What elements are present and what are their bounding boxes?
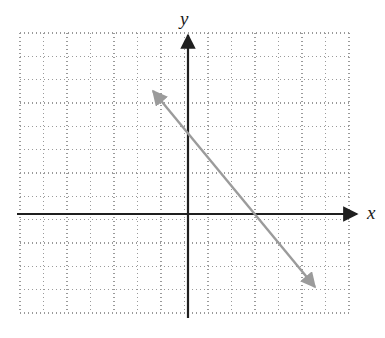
plotted-line xyxy=(153,91,315,287)
y-axis-label: y xyxy=(180,9,188,28)
graph-canvas xyxy=(0,0,385,338)
x-axis-label: x xyxy=(367,203,375,222)
grid-horizontal-lines xyxy=(20,33,349,313)
coordinate-plane-figure: y x xyxy=(0,0,385,338)
